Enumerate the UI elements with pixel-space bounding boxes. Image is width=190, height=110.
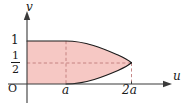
fraction-denominator: 2 [12,64,19,75]
x-tick-label-2a: 2a [122,84,137,96]
x-axis-arrowhead [163,81,172,87]
plot-figure: v u O 1 1 2 a 2a [0,0,190,110]
y-tick-label-one-half: 1 2 [11,50,20,75]
plot-canvas [0,0,190,110]
shaded-region [27,41,132,84]
origin-label: O [8,83,17,94]
x-axis-label: u [173,70,181,82]
fraction-numerator: 1 [12,50,19,61]
y-axis-label: v [26,1,33,13]
y-tick-label-one: 1 [11,34,19,46]
x-tick-label-a: a [62,84,69,96]
